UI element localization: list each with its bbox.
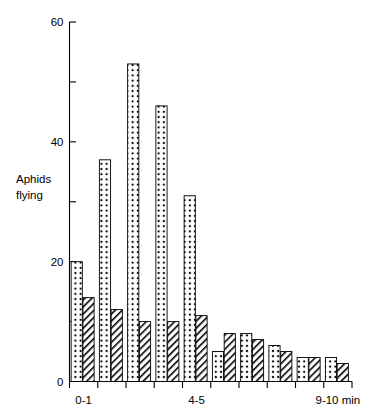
bar-group [297,358,320,382]
bar-group [325,358,348,382]
bar-hatched [309,358,320,382]
bar-group [156,106,179,382]
bar-chart: 0204060Aphidsflying0-14-59-10 min [0,0,372,411]
bar-hatched [111,310,122,382]
bar-hatched [252,340,263,382]
y-axis-title-line: flying [16,189,43,201]
y-axis-tick-label: 40 [51,136,64,148]
y-axis-tick-label: 60 [51,16,64,28]
bar-group [269,346,292,382]
bar-dotted [99,160,110,382]
x-axis-tick-label: 0-1 [75,394,92,406]
y-axis-tick-label: 0 [57,376,63,388]
bar-group [99,160,122,382]
bar-dotted [212,352,223,382]
bar-group [241,334,264,382]
bar-dotted [241,334,252,382]
x-axis-tick-label: 4-5 [188,394,205,406]
bar-dotted [269,346,280,382]
bar-group [71,262,94,382]
bar-group [212,334,235,382]
bar-dotted [156,106,167,382]
bar-hatched [337,364,348,382]
bar-dotted [325,358,336,382]
bar-hatched [281,352,292,382]
bar-dotted [128,64,139,382]
x-axis-tick-label: 9-10 min [316,394,361,406]
bar-hatched [224,334,235,382]
bar-group [128,64,151,382]
bar-hatched [196,316,207,382]
bar-dotted [184,196,195,382]
y-axis-tick-label: 20 [51,256,64,268]
bar-dotted [71,262,82,382]
bar-dotted [297,358,308,382]
plot-area: 0204060Aphidsflying0-14-59-10 min [16,16,360,405]
bar-group [184,196,207,382]
bar-hatched [83,298,94,382]
y-axis-title-line: Aphids [16,173,51,185]
bar-hatched [168,322,179,382]
chart-canvas: 0204060Aphidsflying0-14-59-10 min [0,0,372,411]
bar-hatched [139,322,150,382]
